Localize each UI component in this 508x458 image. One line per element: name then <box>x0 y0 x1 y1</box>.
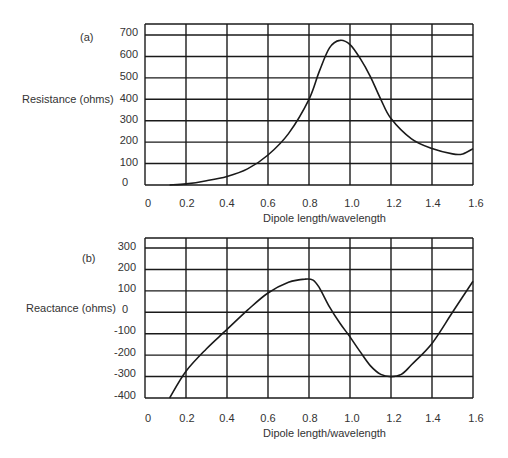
panel-b-grid <box>145 238 473 398</box>
plot-canvas <box>0 0 508 458</box>
dipole-impedance-figure: (a) Resistance (ohms) 700 600 500 400 30… <box>0 0 508 458</box>
reactance-curve <box>170 279 473 398</box>
panel-a-grid <box>145 24 473 185</box>
